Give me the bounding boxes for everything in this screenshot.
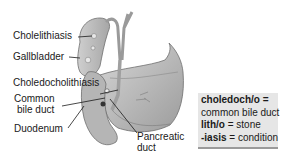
gallbladder-shape <box>78 18 110 76</box>
label-choledocholithiasis: Choledocholithiasis <box>13 77 99 88</box>
label-common-bile-duct-line1: Common <box>14 93 55 104</box>
definition-box: choledoch/o = common bile duct lith/o = … <box>198 93 278 149</box>
label-pancreatic-duct-line2: duct <box>137 142 156 153</box>
ampulla-dot <box>101 102 106 107</box>
label-common-bile-duct-line2: bile duct <box>17 104 54 115</box>
label-pancreatic-duct-line1: Pancreatic <box>137 131 184 142</box>
definition-iasis: -iasis = condition <box>201 132 278 145</box>
label-duodenum: Duodenum <box>14 123 63 134</box>
anatomy-diagram: Cholelithiasis Gallbladder Choledocholit… <box>0 0 282 161</box>
label-cholelithiasis: Cholelithiasis <box>13 30 72 41</box>
definition-litho: lith/o = stone <box>201 119 278 132</box>
definition-choledocho-meaning: common bile duct <box>201 107 278 120</box>
pancreas-shape <box>100 43 183 132</box>
definition-choledocho: choledoch/o = <box>201 94 278 107</box>
label-gallbladder: Gallbladder <box>13 51 64 62</box>
